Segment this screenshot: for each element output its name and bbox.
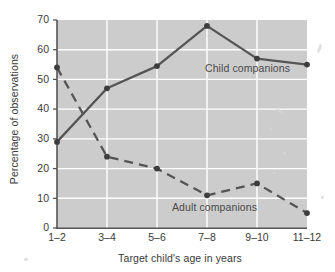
x-tick-label-11-12: 11–12 [280,232,334,243]
x-tick-label-7-8: 7–8 [180,232,234,243]
scan-speck [283,152,286,155]
x-tick-label-5-6: 5–6 [130,232,184,243]
y-tick-label-30: 30 [27,133,49,144]
y-tick-label-60: 60 [27,44,49,55]
plot-background [57,20,307,228]
x-tick-label-9-10: 9–10 [230,232,284,243]
series-annotation-adult-companions: Adult companions [172,201,257,213]
scan-speck [321,196,324,199]
y-tick-label-40: 40 [27,103,49,114]
y-tick-label-70: 70 [27,14,49,25]
x-tick-label-3-4: 3–4 [80,232,134,243]
y-axis-title: Percentage of observations [8,14,20,224]
x-axis-title: Target child's age in years [40,252,320,264]
y-tick-label-10: 10 [27,193,49,204]
scan-speck [24,258,28,261]
chart-container: 70 60 50 40 30 20 10 0 1–2 3–4 5–6 7–8 9… [0,0,335,272]
x-tick-label-1-2: 1–2 [30,232,84,243]
series-annotation-child-companions: Child companions [205,62,290,74]
y-tick-label-50: 50 [27,74,49,85]
y-tick-label-20: 20 [27,163,49,174]
